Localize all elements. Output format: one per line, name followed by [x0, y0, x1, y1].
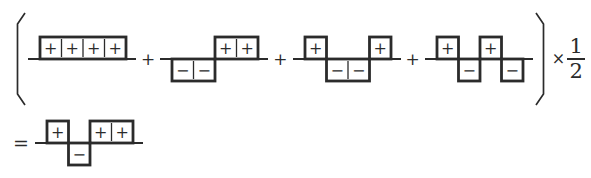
svg-text:+: +: [66, 39, 79, 58]
svg-text:+: +: [219, 39, 232, 58]
svg-text:+: +: [44, 39, 57, 58]
fraction-one-half: 1 2: [567, 36, 585, 82]
times-operator: ×: [552, 51, 565, 67]
svg-text:−: −: [462, 61, 475, 80]
svg-text:−: −: [198, 61, 211, 80]
svg-text:+: +: [109, 39, 122, 58]
waveform-term-3: +−−+: [293, 35, 401, 83]
svg-text:+: +: [115, 123, 128, 142]
svg-text:−: −: [352, 61, 365, 80]
svg-text:+: +: [94, 123, 107, 142]
equals-sign: =: [13, 134, 29, 153]
plus-operator-3: +: [406, 51, 420, 68]
close-paren-icon: [533, 11, 548, 107]
svg-text:+: +: [373, 39, 386, 58]
svg-text:−: −: [330, 61, 343, 80]
svg-text:+: +: [484, 39, 497, 58]
waveform-term-4: +−+−: [425, 35, 533, 83]
equation-left-side: ++++ + −−++ + +−−+ + +−+− × 1 2: [13, 11, 591, 107]
svg-text:−: −: [72, 145, 85, 164]
plus-operator-2: +: [273, 51, 287, 68]
svg-text:−: −: [505, 61, 518, 80]
plus-operator-1: +: [141, 51, 155, 68]
svg-text:−: −: [176, 61, 189, 80]
waveform-term-2: −−++: [160, 35, 268, 83]
fraction-numerator: 1: [569, 36, 582, 57]
haar-waveform-average-equation: ++++ + −−++ + +−−+ + +−+− × 1 2 = +−++: [0, 0, 591, 178]
svg-text:+: +: [87, 39, 100, 58]
waveform-term-1: ++++: [28, 35, 136, 83]
open-paren-icon: [13, 11, 28, 107]
waveform-result: +−++: [35, 119, 143, 167]
equation-right-side: = +−++: [13, 119, 591, 167]
svg-text:+: +: [241, 39, 254, 58]
fraction-denominator: 2: [569, 61, 582, 82]
svg-text:+: +: [51, 123, 64, 142]
svg-text:+: +: [441, 39, 454, 58]
svg-text:+: +: [309, 39, 322, 58]
